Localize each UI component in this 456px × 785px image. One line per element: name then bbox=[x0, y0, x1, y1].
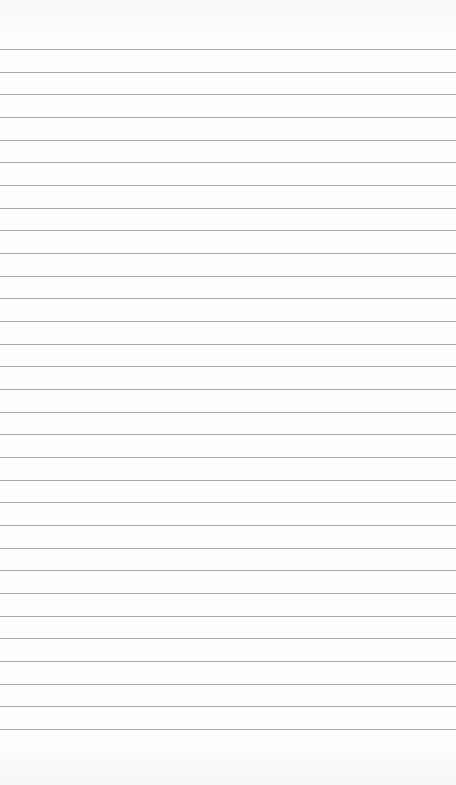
ruled-line bbox=[0, 366, 456, 367]
ruled-line bbox=[0, 638, 456, 639]
ruled-line bbox=[0, 72, 456, 73]
ruled-line bbox=[0, 94, 456, 95]
ruled-line bbox=[0, 570, 456, 571]
ruled-line bbox=[0, 684, 456, 685]
ruled-line bbox=[0, 230, 456, 231]
ruled-line bbox=[0, 525, 456, 526]
ruled-line bbox=[0, 729, 456, 730]
ruled-line bbox=[0, 389, 456, 390]
ruled-line bbox=[0, 661, 456, 662]
ruled-line bbox=[0, 480, 456, 481]
ruled-line bbox=[0, 321, 456, 322]
ruled-line bbox=[0, 208, 456, 209]
ruled-line bbox=[0, 140, 456, 141]
lined-paper-sheet bbox=[0, 0, 456, 785]
ruled-line bbox=[0, 344, 456, 345]
ruled-line bbox=[0, 593, 456, 594]
ruled-line bbox=[0, 502, 456, 503]
ruled-line bbox=[0, 276, 456, 277]
ruled-line bbox=[0, 253, 456, 254]
ruled-line bbox=[0, 434, 456, 435]
ruled-line bbox=[0, 412, 456, 413]
ruled-line bbox=[0, 185, 456, 186]
ruled-line bbox=[0, 162, 456, 163]
ruled-line bbox=[0, 298, 456, 299]
ruled-line bbox=[0, 616, 456, 617]
ruled-line bbox=[0, 457, 456, 458]
ruled-line bbox=[0, 706, 456, 707]
ruled-line bbox=[0, 49, 456, 50]
ruled-line bbox=[0, 548, 456, 549]
ruled-line bbox=[0, 117, 456, 118]
